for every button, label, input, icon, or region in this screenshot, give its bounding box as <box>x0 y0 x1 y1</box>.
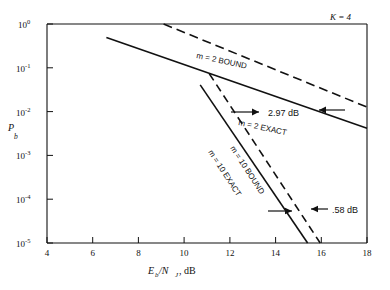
y-tick-label-5: 10-5 <box>16 237 30 249</box>
curve-m10-bound <box>209 74 320 243</box>
gap-lower-right-arrowhead <box>311 206 318 212</box>
x-tick-label-1: 6 <box>90 248 95 258</box>
x-tick-label-0: 4 <box>45 248 50 258</box>
y-axis-title: P b <box>7 122 18 141</box>
y-tick-label-2: 10-2 <box>16 106 30 118</box>
gap-annotation-lower: .58 dB <box>268 205 358 215</box>
y-tick-label-0: 100 <box>18 18 30 30</box>
gap-upper-label: 2.97 dB <box>268 108 299 118</box>
curve-m2-bound <box>164 24 367 107</box>
x-tick-label-3: 10 <box>180 248 190 258</box>
y-tick-label-4: 10-4 <box>16 193 31 205</box>
y-tick-label-1: 10-1 <box>16 62 30 74</box>
x-tick-label-6: 16 <box>317 248 327 258</box>
x-tick-label-7: 18 <box>363 248 373 258</box>
curve-m2-exact <box>106 38 367 129</box>
y-axis-title-sub: b <box>14 132 18 141</box>
x-axis-title-slash-N: /N <box>158 265 170 276</box>
x-tick-label-2: 8 <box>136 248 141 258</box>
ber-performance-chart: 100 10-1 10-2 10-3 10-4 10-5 P b 4 6 8 <box>0 0 390 290</box>
x-tick-label-5: 14 <box>271 248 281 258</box>
x-axis-title: E b /N J , dB <box>147 265 196 279</box>
corner-annotation-label: K = 4 <box>329 12 352 22</box>
gap-lower-left-arrowhead <box>285 208 292 214</box>
gap-upper-left-arrowhead <box>252 109 259 116</box>
x-axis-tick-labels: 4 6 8 10 12 14 16 18 <box>45 248 372 258</box>
y-axis-ticks <box>47 24 53 243</box>
x-axis-title-E: E <box>147 265 154 276</box>
gap-annotation-upper: 2.97 dB <box>231 107 345 118</box>
curve-label-m2-bound: m = 2 BOUND <box>196 51 248 71</box>
x-axis-title-unit: , dB <box>179 265 196 276</box>
y-tick-label-3: 10-3 <box>16 149 30 161</box>
y-axis-tick-labels: 100 10-1 10-2 10-3 10-4 10-5 <box>16 18 31 249</box>
x-tick-label-4: 12 <box>225 248 234 258</box>
chart-figure: 100 10-1 10-2 10-3 10-4 10-5 P b 4 6 8 <box>0 0 390 290</box>
gap-lower-label: .58 dB <box>332 205 358 215</box>
curve-label-m2-exact: m = 2 EXACT <box>238 118 288 137</box>
